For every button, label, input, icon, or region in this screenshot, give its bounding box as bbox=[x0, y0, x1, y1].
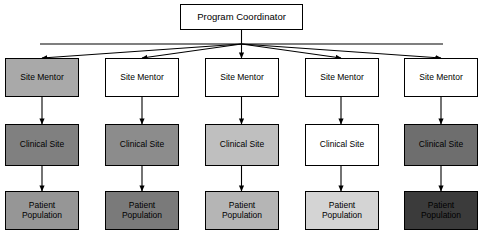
node-label: Site Mentor bbox=[118, 73, 165, 83]
node-label: Clinical Site bbox=[18, 140, 66, 150]
node-site-mentor-3[interactable]: Site Mentor bbox=[205, 58, 279, 97]
node-label: Site Mentor bbox=[417, 73, 464, 83]
node-clinical-site-3[interactable]: Clinical Site bbox=[205, 124, 279, 166]
node-label-line2: Population bbox=[320, 211, 364, 221]
node-patient-population-2[interactable]: Patient Population bbox=[105, 191, 179, 230]
node-label: Site Mentor bbox=[318, 73, 365, 83]
node-site-mentor-4[interactable]: Site Mentor bbox=[305, 58, 379, 97]
node-clinical-site-1[interactable]: Clinical Site bbox=[5, 124, 79, 166]
node-clinical-site-5[interactable]: Clinical Site bbox=[404, 124, 478, 166]
node-site-mentor-1[interactable]: Site Mentor bbox=[5, 58, 79, 97]
node-clinical-site-4[interactable]: Clinical Site bbox=[305, 124, 379, 166]
diagram-canvas: Program Coordinator Site Mentor Clinical… bbox=[0, 0, 483, 235]
node-label-line2: Population bbox=[220, 211, 264, 221]
node-label: Clinical Site bbox=[218, 140, 266, 150]
node-label: Clinical Site bbox=[417, 140, 465, 150]
node-label-line2: Population bbox=[419, 211, 463, 221]
node-label-line2: Population bbox=[120, 211, 164, 221]
node-label: Program Coordinator bbox=[195, 12, 288, 23]
node-patient-population-3[interactable]: Patient Population bbox=[205, 191, 279, 230]
node-label: Clinical Site bbox=[118, 140, 166, 150]
node-patient-population-1[interactable]: Patient Population bbox=[5, 191, 79, 230]
node-site-mentor-2[interactable]: Site Mentor bbox=[105, 58, 179, 97]
node-label: Site Mentor bbox=[18, 73, 65, 83]
node-patient-population-4[interactable]: Patient Population bbox=[305, 191, 379, 230]
node-label-line2: Population bbox=[20, 211, 64, 221]
node-label: Clinical Site bbox=[318, 140, 366, 150]
node-clinical-site-2[interactable]: Clinical Site bbox=[105, 124, 179, 166]
node-program-coordinator[interactable]: Program Coordinator bbox=[180, 4, 303, 30]
node-site-mentor-5[interactable]: Site Mentor bbox=[404, 58, 478, 97]
node-patient-population-5[interactable]: Patient Population bbox=[404, 191, 478, 230]
node-label: Site Mentor bbox=[218, 73, 265, 83]
